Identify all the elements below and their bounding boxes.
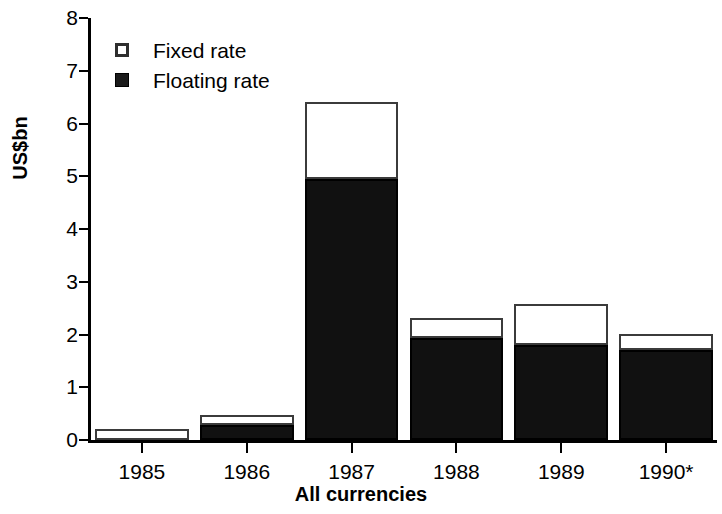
x-axis-tick <box>455 443 457 453</box>
y-axis-tick-label: 1 <box>18 376 78 397</box>
bar-segment-floating-rate <box>305 179 399 440</box>
legend-label-floating-rate: Floating rate <box>153 67 270 95</box>
y-axis-tick-label: 4 <box>18 218 78 239</box>
y-axis-tick-label: 0 <box>18 429 78 450</box>
bar-segment-fixed-rate <box>305 102 399 178</box>
x-axis-tick-label: 1989 <box>501 461 621 483</box>
y-axis-tick <box>79 281 88 283</box>
x-axis-tick <box>246 443 248 453</box>
y-axis-line <box>88 18 91 440</box>
bar-stack <box>514 304 608 440</box>
chart-legend: Fixed rate Floating rate <box>115 37 355 97</box>
chart-figure: US$bn 012345678 Fixed rate Floating rate… <box>0 0 722 514</box>
bar-segment-fixed-rate <box>410 318 504 338</box>
y-axis-tick <box>79 17 88 19</box>
x-axis-tick <box>665 443 667 453</box>
y-axis-tick-label: 8 <box>18 7 78 28</box>
bar-segment-fixed-rate <box>200 415 294 425</box>
x-axis-title: All currencies <box>0 482 722 506</box>
y-axis-tick-label: 7 <box>18 60 78 81</box>
x-axis-tick <box>351 443 353 453</box>
bar-stack <box>305 102 399 440</box>
y-axis-tick-label: 3 <box>18 271 78 292</box>
legend-label-fixed-rate: Fixed rate <box>153 37 246 65</box>
x-axis-tick-label: 1985 <box>82 461 202 483</box>
x-axis-tick-label: 1988 <box>396 461 516 483</box>
y-axis-tick-label: 2 <box>18 324 78 345</box>
y-axis-tick-labels: 012345678 <box>0 18 78 440</box>
open-square-icon <box>115 43 129 57</box>
bar-segment-fixed-rate <box>514 304 608 345</box>
bar-segment-floating-rate <box>410 338 504 440</box>
y-axis-tick <box>79 228 88 230</box>
bar-segment-floating-rate <box>619 350 713 440</box>
y-axis-tick <box>79 334 88 336</box>
y-axis-tick <box>79 70 88 72</box>
x-axis-line <box>88 440 717 443</box>
y-axis-tick <box>79 386 88 388</box>
y-axis-tick <box>79 175 88 177</box>
x-axis-tick-label: 1986 <box>187 461 307 483</box>
x-axis-tick <box>141 443 143 453</box>
bar-stack <box>95 429 189 440</box>
bar-stack <box>200 415 294 440</box>
legend-item-floating-rate: Floating rate <box>115 67 355 97</box>
bar-segment-floating-rate <box>200 425 294 440</box>
x-axis-tick-label: 1990* <box>606 461 722 483</box>
bar-segment-fixed-rate <box>619 334 713 350</box>
legend-item-fixed-rate: Fixed rate <box>115 37 355 67</box>
y-axis-tick <box>79 439 88 441</box>
bar-segment-fixed-rate <box>95 429 189 440</box>
filled-square-icon <box>115 73 129 87</box>
bar-stack <box>619 334 713 440</box>
bar-stack <box>410 318 504 440</box>
x-axis-tick-label: 1987 <box>292 461 412 483</box>
bar-segment-floating-rate <box>514 345 608 440</box>
y-axis-tick <box>79 123 88 125</box>
x-axis-tick <box>560 443 562 453</box>
y-axis-tick-label: 6 <box>18 113 78 134</box>
y-axis-tick-label: 5 <box>18 165 78 186</box>
